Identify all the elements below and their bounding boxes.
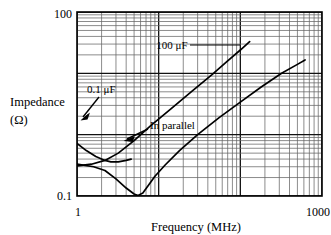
chart-background [0, 0, 331, 235]
chart-canvas: 100 μF 0.1 μF In parallel 100 0.1 1 1000… [0, 0, 331, 235]
x-tick-left: 1 [75, 205, 81, 219]
label-100uf: 100 μF [156, 39, 187, 51]
label-01uf: 0.1 μF [87, 83, 116, 95]
y-axis-title-line2: (Ω) [10, 113, 28, 127]
label-in-parallel: In parallel [150, 119, 195, 131]
impedance-vs-frequency-chart: 100 μF 0.1 μF In parallel 100 0.1 1 1000… [0, 0, 331, 235]
y-axis-title-line1: Impedance [10, 95, 65, 109]
x-tick-right: 1000 [306, 205, 330, 219]
x-axis-title: Frequency (MHz) [151, 220, 241, 234]
y-tick-bottom: 0.1 [57, 189, 72, 203]
y-tick-top: 100 [54, 7, 72, 21]
